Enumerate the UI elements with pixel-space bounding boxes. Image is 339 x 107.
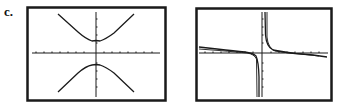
right-branch-shadow [267,12,319,56]
y-axis [262,12,264,97]
hyperbola-graph [26,6,167,102]
y-axis [96,12,98,97]
left-branch-curve [199,47,259,97]
problem-label: c. [4,4,13,20]
left-branch-shadow [199,49,257,97]
x-axis [199,52,328,54]
rational-function-graph [195,7,333,102]
